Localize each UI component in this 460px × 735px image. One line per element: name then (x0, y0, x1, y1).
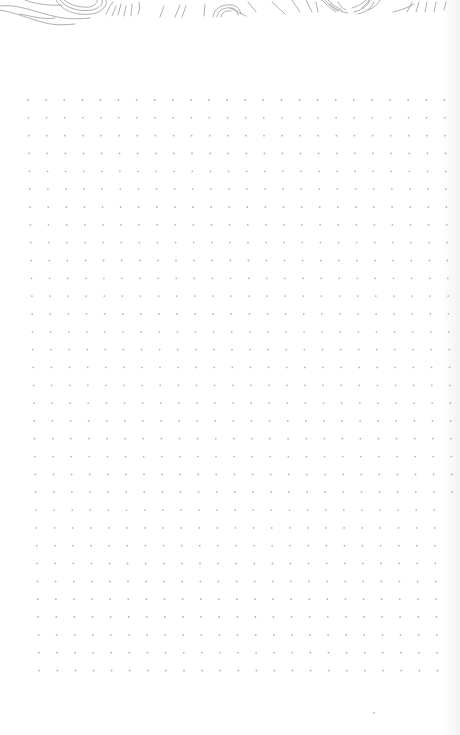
grid-dot (287, 402, 289, 404)
grid-dot (303, 331, 305, 333)
grid-dot (362, 545, 364, 547)
grid-dot (54, 563, 56, 565)
grid-dot (339, 295, 341, 297)
grid-dot (143, 491, 145, 493)
grid-dot (47, 206, 49, 208)
grid-dot (108, 509, 110, 511)
grid-dot (343, 527, 345, 529)
grid-dot (253, 527, 255, 529)
grid-dot (378, 438, 380, 440)
grid-dot (191, 135, 193, 137)
grid-dot (89, 474, 91, 476)
grid-dot (361, 509, 363, 511)
grid-dot (213, 349, 215, 351)
grid-dot (321, 331, 323, 333)
grid-dot (291, 616, 293, 618)
grid-dot (190, 99, 192, 101)
grid-dot (371, 99, 373, 101)
grid-dot (28, 135, 30, 137)
grid-dot (266, 277, 268, 279)
grid-dot (56, 652, 58, 654)
grid-dot (182, 598, 184, 600)
grid-dot (291, 652, 293, 654)
grid-dot (395, 420, 397, 422)
grid-dot (215, 438, 217, 440)
grid-dot (355, 206, 357, 208)
grid-dot (193, 242, 195, 244)
grid-dot (299, 117, 301, 119)
grid-dot (51, 402, 53, 404)
grid-dot (393, 295, 395, 297)
grid-dot (397, 509, 399, 511)
grid-dot (372, 170, 374, 172)
grid-dot (73, 581, 75, 583)
grid-dot (219, 670, 221, 672)
grid-dot (55, 598, 57, 600)
grid-dot (82, 117, 84, 119)
grid-dot (52, 438, 54, 440)
grid-dot (159, 367, 161, 369)
grid-dot (140, 313, 142, 315)
grid-dot (218, 581, 220, 583)
grid-dot (110, 652, 112, 654)
grid-dot (128, 616, 130, 618)
grid-dot (211, 260, 213, 262)
grid-dot (235, 545, 237, 547)
grid-dot (217, 527, 219, 529)
grid-dot (196, 384, 198, 386)
grid-dot (266, 260, 268, 262)
grid-dot (392, 242, 394, 244)
grid-dot (55, 581, 57, 583)
grid-dot (410, 260, 412, 262)
grid-dot (183, 652, 185, 654)
grid-dot (162, 509, 164, 511)
grid-dot (326, 563, 328, 565)
grid-dot (67, 295, 69, 297)
grid-dot (433, 491, 435, 493)
grid-dot (267, 331, 269, 333)
grid-dot (323, 438, 325, 440)
grid-dot (429, 277, 431, 279)
grid-dot (284, 260, 286, 262)
grid-dot (305, 420, 307, 422)
grid-dot (138, 188, 140, 190)
grid-dot (381, 598, 383, 600)
grid-dot (428, 224, 430, 226)
grid-dot (281, 135, 283, 137)
grid-dot (163, 563, 165, 565)
grid-dot (360, 474, 362, 476)
grid-dot (283, 224, 285, 226)
grid-dot (412, 349, 414, 351)
grid-dot (253, 563, 255, 565)
grid-dot (216, 491, 218, 493)
grid-dot (157, 260, 159, 262)
grid-dot (251, 438, 253, 440)
grid-dot (155, 135, 157, 137)
grid-dot (413, 402, 415, 404)
grid-dot (444, 135, 446, 137)
grid-dot (123, 384, 125, 386)
grid-dot (414, 420, 416, 422)
grid-dot (49, 277, 51, 279)
grid-dot (190, 117, 192, 119)
grid-dot (64, 153, 66, 155)
grid-dot (227, 117, 229, 119)
grid-dot (103, 260, 105, 262)
grid-dot (245, 135, 247, 137)
grid-dot (447, 295, 449, 297)
grid-dot (341, 420, 343, 422)
grid-dot (431, 402, 433, 404)
grid-dot (213, 331, 215, 333)
grid-dot (121, 277, 123, 279)
grid-dot (90, 527, 92, 529)
grid-dot (138, 224, 140, 226)
grid-dot (230, 277, 232, 279)
grid-dot (287, 438, 289, 440)
grid-dot (360, 456, 362, 458)
grid-dot (310, 670, 312, 672)
grid-dot (197, 438, 199, 440)
grid-dot (353, 99, 355, 101)
grid-dot (108, 545, 110, 547)
grid-dot (449, 384, 451, 386)
grid-dot (288, 474, 290, 476)
